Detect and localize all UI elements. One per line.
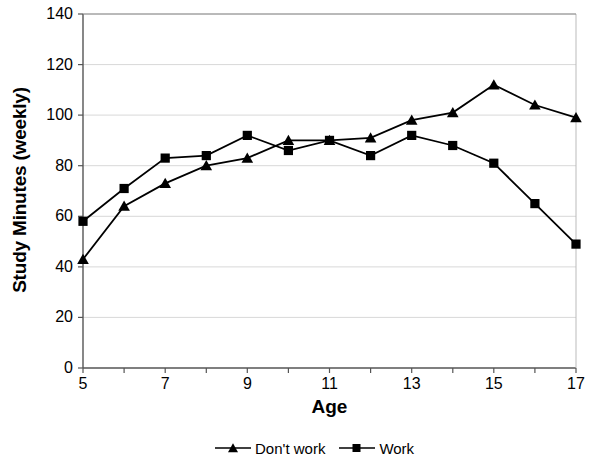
data-point — [159, 178, 171, 188]
data-point — [243, 131, 252, 140]
gridlines — [83, 14, 576, 317]
legend-label-dont-work: Don't work — [255, 441, 325, 456]
y-tick-label-120: 120 — [31, 57, 73, 73]
data-point — [571, 240, 580, 249]
x-tick-label-9: 9 — [227, 376, 267, 392]
data-point — [120, 184, 129, 193]
data-point — [284, 146, 293, 155]
y-tick-label-60: 60 — [31, 208, 73, 224]
y-tick-label-80: 80 — [31, 158, 73, 174]
legend-label-work: Work — [379, 441, 414, 456]
y-axis-title-text: Study Minutes (weekly) — [9, 87, 31, 293]
data-series-layer — [77, 79, 582, 264]
square-marker-icon — [339, 441, 375, 455]
y-tick-label-40: 40 — [31, 259, 73, 275]
plot-area — [0, 0, 594, 462]
legend-item-dont-work: Don't work — [215, 441, 325, 456]
legend-item-work: Work — [339, 441, 414, 456]
series-line — [83, 135, 576, 244]
chart-figure: Study Minutes (weekly) Age 0204060801001… — [0, 0, 594, 462]
data-point — [325, 136, 334, 145]
x-tick-label-7: 7 — [145, 376, 185, 392]
data-point — [489, 159, 498, 168]
data-point — [530, 199, 539, 208]
x-tick-label-15: 15 — [474, 376, 514, 392]
tick-marks — [78, 14, 576, 373]
data-point — [447, 107, 459, 117]
data-point — [118, 201, 130, 211]
data-point — [448, 141, 457, 150]
y-tick-label-20: 20 — [31, 309, 73, 325]
y-tick-label-0: 0 — [31, 360, 73, 376]
data-point — [366, 151, 375, 160]
y-tick-label-100: 100 — [31, 107, 73, 123]
x-tick-label-5: 5 — [63, 376, 103, 392]
x-tick-label-13: 13 — [392, 376, 432, 392]
x-tick-label-11: 11 — [310, 376, 350, 392]
data-point — [242, 153, 254, 163]
data-point — [161, 154, 170, 163]
data-point — [202, 151, 211, 160]
series-don-t-work — [77, 79, 582, 264]
triangle-marker-icon — [215, 441, 251, 455]
data-point — [407, 131, 416, 140]
data-point — [78, 217, 87, 226]
data-point — [488, 79, 500, 89]
y-tick-label-140: 140 — [31, 6, 73, 22]
x-tick-label-17: 17 — [556, 376, 594, 392]
x-axis-title: Age — [83, 396, 576, 418]
data-point — [529, 99, 541, 109]
chart-legend: Don't work Work — [215, 437, 414, 459]
axis-lines — [83, 14, 576, 368]
